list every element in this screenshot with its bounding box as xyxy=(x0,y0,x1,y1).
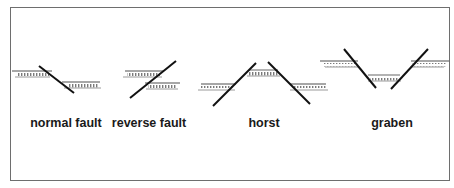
fault-line-right xyxy=(268,62,310,104)
stratum-raised-block xyxy=(247,70,280,76)
label-horst: horst xyxy=(248,116,279,130)
label-normal-fault: normal fault xyxy=(30,116,102,130)
stratum-lower-right xyxy=(145,83,180,89)
fault-diagrams xyxy=(0,0,454,188)
reverse-fault-diagram xyxy=(123,61,180,98)
fault-line-left xyxy=(344,49,376,88)
graben-diagram xyxy=(320,49,449,89)
fault-line xyxy=(130,61,176,98)
label-reverse-fault: reverse fault xyxy=(112,116,186,130)
fault-line xyxy=(39,66,74,93)
normal-fault-diagram xyxy=(12,66,101,93)
label-graben: graben xyxy=(371,116,413,130)
fault-line-right xyxy=(391,49,428,89)
horst-diagram xyxy=(198,62,328,106)
stratum-lowered-block xyxy=(368,75,401,81)
